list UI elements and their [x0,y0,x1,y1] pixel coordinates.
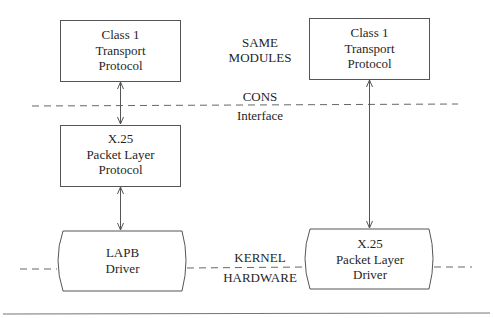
same-modules-label: SAME MODULES [205,35,315,65]
arrow-plp-to-lapb [118,187,124,230]
left-transport-label: Class 1 Transport Protocol [60,27,181,74]
left-transport-line-2: Transport [60,43,181,59]
left-x25-plp-line-1: X.25 [60,131,181,147]
left-transport-line-3: Protocol [60,58,181,74]
right-transport-line-1: Class 1 [309,25,430,41]
left-transport-line-1: Class 1 [60,27,181,43]
cons-interface-boundary [32,104,458,106]
x25-plp-driver-line-1: X.25 [306,236,434,252]
right-transport-line-3: Protocol [309,56,430,72]
right-transport-line-2: Transport [309,41,430,57]
kernel-label: KERNEL [205,250,315,265]
x25-plp-driver-line-2: Packet Layer [306,252,434,268]
arrow-transport-to-x25-driver [367,80,373,228]
x25-plp-driver-line-3: Driver [306,267,434,283]
hardware-label: HARDWARE [205,270,315,285]
right-transport-label: Class 1 Transport Protocol [309,25,430,72]
lapb-driver-label: LAPB Driver [60,245,185,276]
arrow-transport-to-plp [118,82,124,124]
same-modules-line-2: MODULES [205,50,315,65]
interface-label: Interface [205,108,315,123]
left-x25-plp-label: X.25 Packet Layer Protocol [60,131,181,178]
same-modules-line-1: SAME [205,35,315,50]
kernel-hardware-boundary-middle [187,267,306,268]
bottom-rule [3,313,490,314]
left-x25-plp-line-3: Protocol [60,162,181,178]
left-x25-plp-line-2: Packet Layer [60,147,181,163]
x25-plp-driver-label: X.25 Packet Layer Driver [306,236,434,283]
cons-label: CONS [205,89,315,104]
lapb-driver-line-2: Driver [60,261,185,277]
lapb-driver-line-1: LAPB [60,245,185,261]
